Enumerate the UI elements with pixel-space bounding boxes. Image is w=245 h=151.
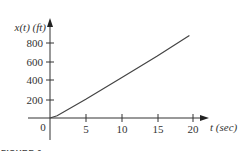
x-tick-label: 10: [117, 123, 129, 135]
y-tick-label: 400: [27, 74, 44, 86]
x-tick-label: 15: [153, 123, 165, 135]
x-tick-label: 5: [83, 123, 89, 135]
y-tick-label: 800: [27, 37, 44, 49]
x-axis-arrow-icon: [200, 115, 209, 121]
y-axis-label: x(t) (ft): [14, 21, 47, 34]
y-tick-label: 200: [27, 94, 44, 106]
y-tick-label: 600: [27, 56, 44, 68]
x-tick-label: 20: [188, 123, 200, 135]
y-axis-arrow-icon: [47, 18, 53, 27]
x-axis-label: t (sec): [210, 121, 238, 134]
x-ticks: 0 5 10 15 20: [40, 114, 199, 135]
chart: 200 400 600 800 0 5 10 15 20 x(t) (ft) t…: [0, 0, 245, 151]
data-series-line: [50, 36, 189, 119]
origin-label: 0: [40, 121, 46, 133]
figure-caption: FIGURE 6: [1, 148, 42, 151]
